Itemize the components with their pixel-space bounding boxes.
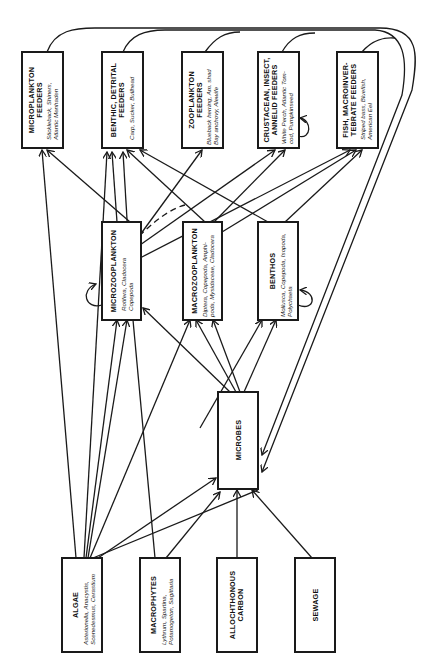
svg-text:MACROZOOPLANKTON: MACROZOOPLANKTON: [190, 228, 199, 314]
box-fish-macroinvertebrate-feeders: FISH, MACROINVER- TEBRATE FEEDERS Stripe…: [337, 52, 378, 148]
svg-text:FEEDERS: FEEDERS: [35, 82, 44, 117]
box-macrophytes: MACROPHYTES Lythrum, Spartina, Potamoget…: [140, 558, 180, 652]
box-algae: ALGAE Asterionella, Anacystis, Scenedesm…: [62, 558, 102, 652]
svg-text:MICROZOOPLANKTON: MICROZOOPLANKTON: [109, 230, 118, 313]
svg-text:Bay anchovy, Alewife: Bay anchovy, Alewife: [212, 86, 219, 145]
svg-text:CARBON: CARBON: [236, 589, 245, 622]
svg-text:poda, Mysidaceae, Cladocera: poda, Mysidaceae, Cladocera: [208, 235, 215, 318]
svg-text:BENTHOS: BENTHOS: [268, 253, 277, 290]
box-macrozooplankton: MACROZOOPLANKTON Diptera, Copepoda, Amph…: [183, 222, 222, 320]
svg-text:ANNELID FEEDERS: ANNELID FEEDERS: [270, 65, 279, 136]
svg-text:Blueback herring, Am. shad: Blueback herring, Am. shad: [205, 69, 212, 145]
box-zooplankton-feeders: ZOOPLANKTON FEEDERS Blueback herring, Am…: [182, 52, 223, 148]
svg-text:Copepoda: Copepoda: [127, 282, 134, 311]
svg-text:Lythrum, Spartina,: Lythrum, Spartina,: [160, 595, 167, 645]
box-sewage: SEWAGE: [295, 558, 335, 652]
box-microzooplankton: MICROZOOPLANKTON Rotifera, Cladocera Cop…: [102, 222, 141, 320]
svg-text:Asterionella, Anacystis,: Asterionella, Anacystis,: [82, 581, 89, 646]
svg-text:Mollusca, Copepoda, Isopoda,: Mollusca, Copepoda, Isopoda,: [279, 233, 286, 317]
food-web-diagram: MICROPLANKTON FEEDERS Stickleback, Shine…: [0, 0, 422, 657]
svg-text:White Perch, Atlantic Tom-: White Perch, Atlantic Tom-: [280, 71, 287, 144]
box-allochthonous-carbon: ALLOCHTHONOUS CARBON: [217, 558, 257, 652]
box-benthos: BENTHOS Mollusca, Copepoda, Isopoda, Pol…: [258, 222, 298, 320]
svg-text:MACROPHYTES: MACROPHYTES: [149, 576, 158, 634]
box-microbes: MICROBES: [218, 392, 258, 489]
svg-text:FEEDERS: FEEDERS: [195, 82, 204, 117]
svg-text:cod, Pumpkinseed: cod, Pumpkinseed: [287, 93, 294, 144]
svg-text:MICROBES: MICROBES: [234, 420, 243, 460]
svg-text:Atlantic Menhaden: Atlantic Menhaden: [52, 88, 59, 141]
svg-text:Striped bass, Bluefish,: Striped bass, Bluefish,: [359, 78, 366, 140]
svg-text:Diptera, Copepoda, Amphi-: Diptera, Copepoda, Amphi-: [201, 242, 208, 317]
box-crustacean-insect-annelid-feeders: CRUSTACEAN, INSECT, ANNELID FEEDERS Whit…: [258, 52, 299, 148]
svg-text:TEBRATE FEEDERS: TEBRATE FEEDERS: [349, 64, 358, 136]
svg-text:ALGAE: ALGAE: [71, 592, 80, 618]
svg-text:Carp, Sucker, Bullhead: Carp, Sucker, Bullhead: [128, 76, 135, 140]
svg-text:Stickleback, Shiners,: Stickleback, Shiners,: [45, 83, 52, 140]
svg-text:Polychaeta: Polychaeta: [286, 286, 293, 317]
box-microplankton-feeders: MICROPLANKTON FEEDERS Stickleback, Shine…: [22, 52, 63, 148]
svg-text:Potamogeton, Sagittaria: Potamogeton, Sagittaria: [167, 578, 174, 645]
svg-text:SEWAGE: SEWAGE: [311, 589, 320, 622]
box-benthic-detrital-feeders: BENTHIC, DETRITAL FEEDERS Carp, Sucker, …: [102, 52, 143, 148]
svg-text:FEEDERS: FEEDERS: [117, 82, 126, 117]
svg-text:Rotifera, Cladocera: Rotifera, Cladocera: [120, 257, 127, 311]
svg-text:American Eel: American Eel: [366, 103, 373, 141]
svg-text:Scenedesmus, Cerastium: Scenedesmus, Cerastium: [89, 574, 96, 645]
